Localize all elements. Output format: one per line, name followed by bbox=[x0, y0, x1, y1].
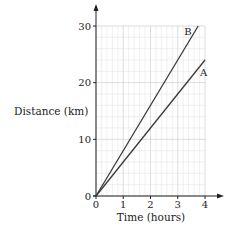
distance-time-chart: 010203001234 AB Time (hours) Distance (k… bbox=[0, 0, 235, 237]
x-tick-label: 0 bbox=[93, 199, 99, 210]
y-axis-label: Distance (km) bbox=[14, 105, 88, 117]
x-axis-arrow-icon bbox=[217, 194, 224, 199]
y-tick-label: 30 bbox=[78, 21, 91, 32]
series-label-a: A bbox=[199, 67, 208, 78]
y-tick-label: 20 bbox=[78, 77, 91, 88]
x-tick-label: 3 bbox=[175, 199, 181, 210]
x-tick-label: 4 bbox=[202, 199, 208, 210]
series-lines: AB bbox=[96, 26, 208, 196]
x-tick-label: 2 bbox=[147, 199, 153, 210]
x-axis-label: Time (hours) bbox=[117, 211, 185, 223]
series-line-b bbox=[96, 26, 198, 196]
grid bbox=[96, 26, 205, 196]
series-label-b: B bbox=[184, 26, 191, 37]
x-tick-label: 1 bbox=[120, 199, 126, 210]
y-axis-arrow-icon bbox=[94, 4, 99, 11]
y-tick-label: 0 bbox=[85, 191, 91, 202]
y-tick-label: 10 bbox=[78, 134, 91, 145]
